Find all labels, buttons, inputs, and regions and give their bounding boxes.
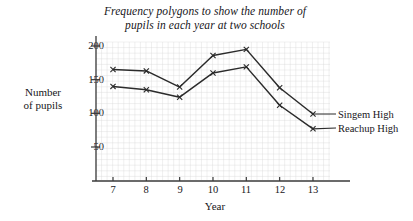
axis-lines [92,36,350,181]
grid-lines [96,42,330,180]
frequency-polygon-chart: Frequency polygons to show the number of… [0,0,413,221]
legend-connector-lines [313,114,336,129]
plot-area [0,0,413,221]
